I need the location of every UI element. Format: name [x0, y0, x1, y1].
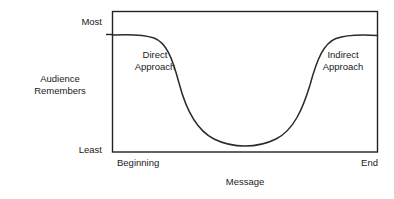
x-tick-label-end: End [320, 157, 378, 169]
y-axis-title-line2: Remembers [34, 85, 86, 96]
y-axis-title: AudienceRemembers [12, 73, 108, 97]
annotation-indirect-approach-line1: Indirect [327, 49, 358, 60]
x-axis-title: Message [205, 176, 285, 188]
annotation-indirect-approach-line2: Approach [323, 61, 364, 72]
y-tick-label-most: Most [58, 16, 102, 28]
annotation-direct-approach-line1: Direct [143, 49, 168, 60]
plot-frame [113, 12, 378, 153]
y-axis-title-line1: Audience [40, 73, 80, 84]
figure-canvas: AudienceRemembers Most Least Beginning E… [0, 0, 394, 199]
annotation-direct-approach: DirectApproach [122, 49, 188, 73]
annotation-indirect-approach: IndirectApproach [308, 49, 378, 73]
y-tick-label-least: Least [58, 144, 102, 156]
x-tick-label-beginning: Beginning [117, 157, 159, 169]
plot-area-svg [0, 0, 394, 199]
annotation-direct-approach-line2: Approach [135, 61, 176, 72]
